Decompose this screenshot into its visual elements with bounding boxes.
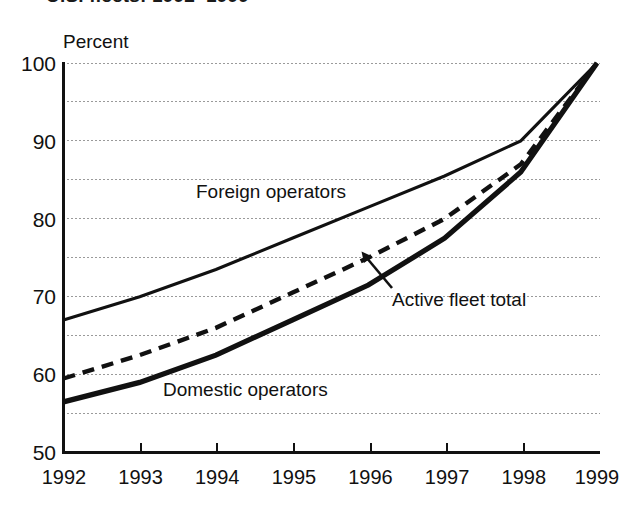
x-axis-tick-labels: 1992 1993 1994 1995 1996 1997 1998 1999: [42, 466, 620, 488]
xtick-label-1994: 1994: [195, 466, 240, 488]
ytick-label-90: 90: [33, 130, 56, 153]
line-chart: 100 90 80 70 60 50 Percent 1992 1993 199…: [0, 0, 635, 514]
xtick-label-1997: 1997: [425, 466, 470, 488]
series-label-active-fleet-total: Active fleet total: [392, 289, 526, 310]
chart-canvas: 100 90 80 70 60 50 Percent 1992 1993 199…: [0, 0, 635, 514]
xtick-label-1995: 1995: [272, 466, 317, 488]
series-label-domestic-operators: Domestic operators: [163, 379, 328, 400]
xtick-label-1999: 1999: [575, 466, 620, 488]
y-axis-tick-labels: 100 90 80 70 60 50: [21, 52, 56, 464]
gridlines: [63, 63, 600, 413]
xtick-label-1993: 1993: [118, 466, 163, 488]
y-axis-unit-label: Percent: [63, 31, 129, 52]
series-line-active-fleet-total: [64, 63, 598, 379]
ytick-label-60: 60: [33, 363, 56, 386]
ytick-label-70: 70: [33, 285, 56, 308]
xtick-label-1998: 1998: [502, 466, 547, 488]
data-series: [64, 63, 598, 402]
ytick-label-80: 80: [33, 208, 56, 231]
series-label-foreign-operators: Foreign operators: [196, 181, 346, 202]
xtick-label-1992: 1992: [42, 466, 87, 488]
ytick-label-50: 50: [33, 441, 56, 464]
ytick-label-100: 100: [21, 52, 56, 75]
series-line-domestic-operators: [64, 63, 598, 402]
xtick-label-1996: 1996: [348, 466, 393, 488]
